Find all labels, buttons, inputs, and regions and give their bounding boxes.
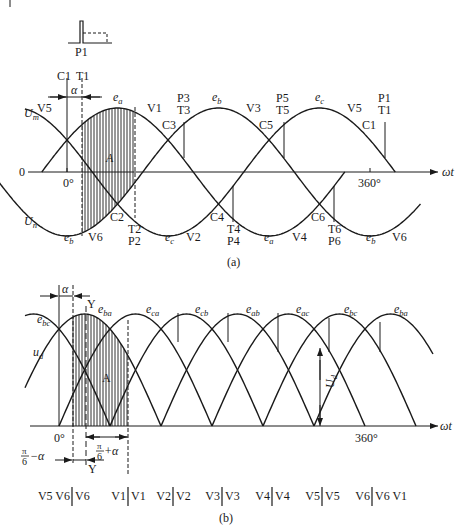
t1-top-label: T1 xyxy=(76,69,89,83)
conduction-sequence: V5 V6V6V1V1V2V2V3V3V4V4V5V5V6V6 V1 xyxy=(38,487,407,506)
pi6-minus-alpha: π 6 −α xyxy=(21,446,45,467)
ea-top-label: ea xyxy=(113,90,123,106)
v4-label: V4 xyxy=(292,230,307,244)
phase-label-eab: eab xyxy=(246,302,260,318)
pi6-plus-alpha: π 6 +α xyxy=(96,441,119,462)
c1-top-label: C1 xyxy=(57,69,71,83)
sequence-left-label: V3 xyxy=(205,489,220,503)
sequence-left-label: V6 xyxy=(355,489,370,503)
svg-text:+α: +α xyxy=(104,444,119,458)
c1-right-label: C1 xyxy=(362,118,376,132)
origin-label: 0 xyxy=(19,165,25,179)
ec-top-label: ec xyxy=(315,90,324,106)
c5-label: C5 xyxy=(259,118,273,132)
eb-bottom-left-label: eb xyxy=(64,230,74,246)
ea-bottom-label: ea xyxy=(264,230,274,246)
t5-label: T5 xyxy=(276,103,289,117)
y-label-bottom: Y xyxy=(88,462,97,476)
omega-t-label-b: ωt xyxy=(440,419,452,433)
sequence-right-label: V6 V1 xyxy=(375,489,407,503)
un-label: Un xyxy=(24,214,37,230)
360-degree-label: 360° xyxy=(358,176,381,190)
sequence-right-label: V3 xyxy=(225,489,240,503)
area-a-label: A xyxy=(105,151,114,165)
y-label-top: Y xyxy=(87,297,96,311)
svg-text:π: π xyxy=(22,446,27,456)
phase-label-ebc: ebc xyxy=(344,302,358,318)
phase-label-eba: eba xyxy=(98,302,112,318)
p6-label: P6 xyxy=(328,234,341,248)
sequence-left-label: V4 xyxy=(255,489,270,503)
area-a-label-b: A xyxy=(102,371,111,385)
sequence-right-label: V5 xyxy=(325,489,340,503)
sequence-right-label: V1 xyxy=(131,489,146,503)
svg-text:6: 6 xyxy=(22,456,27,467)
sequence-right-label: V4 xyxy=(275,489,290,503)
figure-b: α Y Ud Y π 6 +α π 6 −α 0° 360° ωt A ud xyxy=(21,282,452,525)
v2-label: V2 xyxy=(186,230,201,244)
shaded-area-b xyxy=(73,314,127,426)
sequence-left-label: V5 V6 xyxy=(38,489,70,503)
sequence-left-label: V5 xyxy=(305,489,320,503)
figure-a: P1 0 0° 360° ωt Um Un A α C1 T1 V5 xyxy=(0,21,454,269)
v5-right-label: V5 xyxy=(347,101,362,115)
caption-a: (a) xyxy=(227,255,240,269)
sequence-right-label: V2 xyxy=(176,489,191,503)
phase-label-eca: eca xyxy=(146,302,159,318)
alpha-label-b: α xyxy=(62,282,69,296)
eb-top-label: eb xyxy=(212,90,222,106)
t1-right-label: T1 xyxy=(378,103,391,117)
zero-degree-label: 0° xyxy=(63,176,74,190)
phase-label-eba: eba xyxy=(394,302,408,318)
v6-label: V6 xyxy=(88,230,103,244)
v5-label: V5 xyxy=(37,101,52,115)
phase-label-eac: eac xyxy=(296,302,310,318)
p2-label: P2 xyxy=(128,234,141,248)
c6-label: C6 xyxy=(311,210,325,224)
ud-avg-label: Ud xyxy=(323,374,339,388)
sequence-left-label: V1 xyxy=(111,489,126,503)
c4-label: C4 xyxy=(210,210,224,224)
alpha-label: α xyxy=(71,83,78,97)
p4-label: P4 xyxy=(227,234,240,248)
pulse-label: P1 xyxy=(75,45,88,59)
c2-label: C2 xyxy=(110,210,124,224)
v1-label: V1 xyxy=(147,101,162,115)
sequence-left-label: V2 xyxy=(156,489,171,503)
t3-label: T3 xyxy=(177,103,190,117)
phase-label-ebc: ebc xyxy=(37,312,51,328)
caption-b: (b) xyxy=(219,511,233,525)
svg-text:π: π xyxy=(97,441,102,451)
360-degree-label-b: 360° xyxy=(355,431,378,445)
omega-t-label: ωt xyxy=(442,165,454,179)
v3-label: V3 xyxy=(246,101,261,115)
svg-text:−α: −α xyxy=(30,449,45,463)
zero-degree-label-b: 0° xyxy=(54,431,65,445)
sequence-right-label: V6 xyxy=(75,489,90,503)
v6-right-label: V6 xyxy=(392,230,407,244)
svg-text:6: 6 xyxy=(97,451,102,462)
ud-label: ud xyxy=(33,345,44,361)
thyristor-rectifier-waveform-diagram: P1 0 0° 360° ωt Um Un A α C1 T1 V5 xyxy=(0,0,468,525)
trigger-pulse: P1 xyxy=(68,21,112,59)
c3-label: C3 xyxy=(162,118,176,132)
ec-bottom-label: ec xyxy=(165,230,174,246)
phase-label-ecb: ecb xyxy=(195,302,208,318)
eb-bottom-right-label: eb xyxy=(366,230,376,246)
